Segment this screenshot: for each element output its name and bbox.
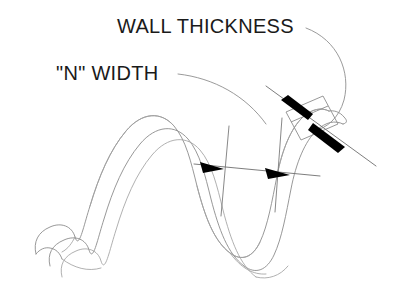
n-width-leader-line: [178, 74, 266, 124]
strip-seam-bottom-left: [62, 259, 101, 270]
n-width-extension-line-right: [275, 118, 282, 212]
wall-thickness-label: WALL THICKNESS: [117, 15, 294, 37]
technical-diagram-root: WALL THICKNESS "N" WIDTH: [0, 0, 397, 292]
strip-outer-top-edge: [35, 109, 329, 257]
wall-thickness-callout: [266, 28, 376, 166]
wall-thickness-leader-line: [306, 28, 346, 131]
strip-inner-bottom-edge: [61, 140, 256, 277]
strip-crest-line-right: [277, 109, 329, 176]
strip-left-inner-cap: [62, 237, 75, 252]
strip-tail-right: [256, 266, 288, 278]
wall-thickness-arrowhead-lower: [308, 123, 345, 153]
serpentine-strip: [35, 109, 346, 278]
wall-thickness-arrowhead-upper: [281, 95, 313, 120]
diagram-canvas: WALL THICKNESS "N" WIDTH: [0, 0, 397, 292]
n-width-extension-line-left: [221, 126, 229, 216]
n-width-label: "N" WIDTH: [56, 62, 158, 84]
